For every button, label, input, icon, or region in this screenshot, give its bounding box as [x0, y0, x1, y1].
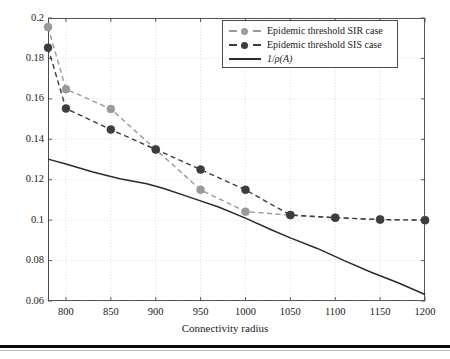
y-tick-label: 0.2	[10, 13, 44, 23]
data-point-marker	[44, 44, 52, 52]
y-tick-label: 0.1	[10, 215, 44, 225]
page-divider-rule	[0, 345, 450, 348]
legend-label-sir: Epidemic threshold SIR case	[267, 25, 383, 37]
data-point-marker	[152, 145, 160, 153]
data-point-marker	[107, 126, 115, 134]
legend: Epidemic threshold SIR case Epidemic thr…	[222, 20, 398, 68]
y-tick-label: 0.18	[10, 53, 44, 63]
legend-label-rho: 1/ρ(A)	[267, 53, 292, 65]
data-point-marker	[62, 105, 70, 113]
data-point-marker	[241, 186, 249, 194]
y-tick-label: 0.14	[10, 134, 44, 144]
data-point-marker	[286, 211, 294, 219]
data-point-marker	[376, 216, 384, 224]
x-tick-label: 1100	[315, 306, 355, 317]
figure-root: 0.060.080.10.120.140.160.180.2 800850900…	[0, 0, 450, 359]
x-tick-label: 1050	[270, 306, 310, 317]
y-tick-label-wrap: 0.06	[0, 296, 44, 306]
y-tick-label-wrap: 0.1	[0, 215, 44, 225]
data-point-marker	[107, 105, 115, 113]
data-point-marker	[62, 85, 70, 93]
series-line-1	[48, 48, 425, 220]
y-tick-label: 0.16	[10, 93, 44, 103]
legend-entry-sir: Epidemic threshold SIR case	[228, 24, 392, 38]
x-tick-label: 950	[181, 306, 221, 317]
data-point-marker	[197, 186, 205, 194]
legend-swatch-sir	[228, 25, 262, 37]
x-tick-label: 900	[136, 306, 176, 317]
data-point-marker	[421, 216, 429, 224]
y-tick-label-wrap: 0.12	[0, 174, 44, 184]
y-tick-label: 0.08	[10, 255, 44, 265]
x-axis-title: Connectivity radius	[0, 322, 450, 334]
series-line-2	[48, 159, 425, 294]
x-tick-label: 800	[46, 306, 86, 317]
legend-swatch-rho	[228, 53, 262, 65]
x-tick-label: 850	[91, 306, 131, 317]
y-tick-label-wrap: 0.14	[0, 134, 44, 144]
page-divider-rule-secondary	[0, 350, 450, 351]
legend-swatch-sis	[228, 39, 262, 51]
data-point-marker	[197, 166, 205, 174]
x-tick-label: 1200	[405, 306, 445, 317]
legend-entry-sis: Epidemic threshold SIS case	[228, 38, 392, 52]
y-tick-label-wrap: 0.16	[0, 93, 44, 103]
y-tick-label-wrap: 0.08	[0, 255, 44, 265]
x-tick-label: 1150	[360, 306, 400, 317]
data-point-marker	[44, 23, 52, 31]
y-tick-label-wrap: 0.18	[0, 53, 44, 63]
y-tick-label: 0.12	[10, 174, 44, 184]
legend-label-sis: Epidemic threshold SIS case	[267, 39, 382, 51]
data-point-marker	[241, 208, 249, 216]
y-tick-label: 0.06	[10, 296, 44, 306]
legend-entry-rho: 1/ρ(A)	[228, 52, 392, 66]
x-tick-label: 1000	[225, 306, 265, 317]
data-point-marker	[331, 214, 339, 222]
y-tick-label-wrap: 0.2	[0, 13, 44, 23]
